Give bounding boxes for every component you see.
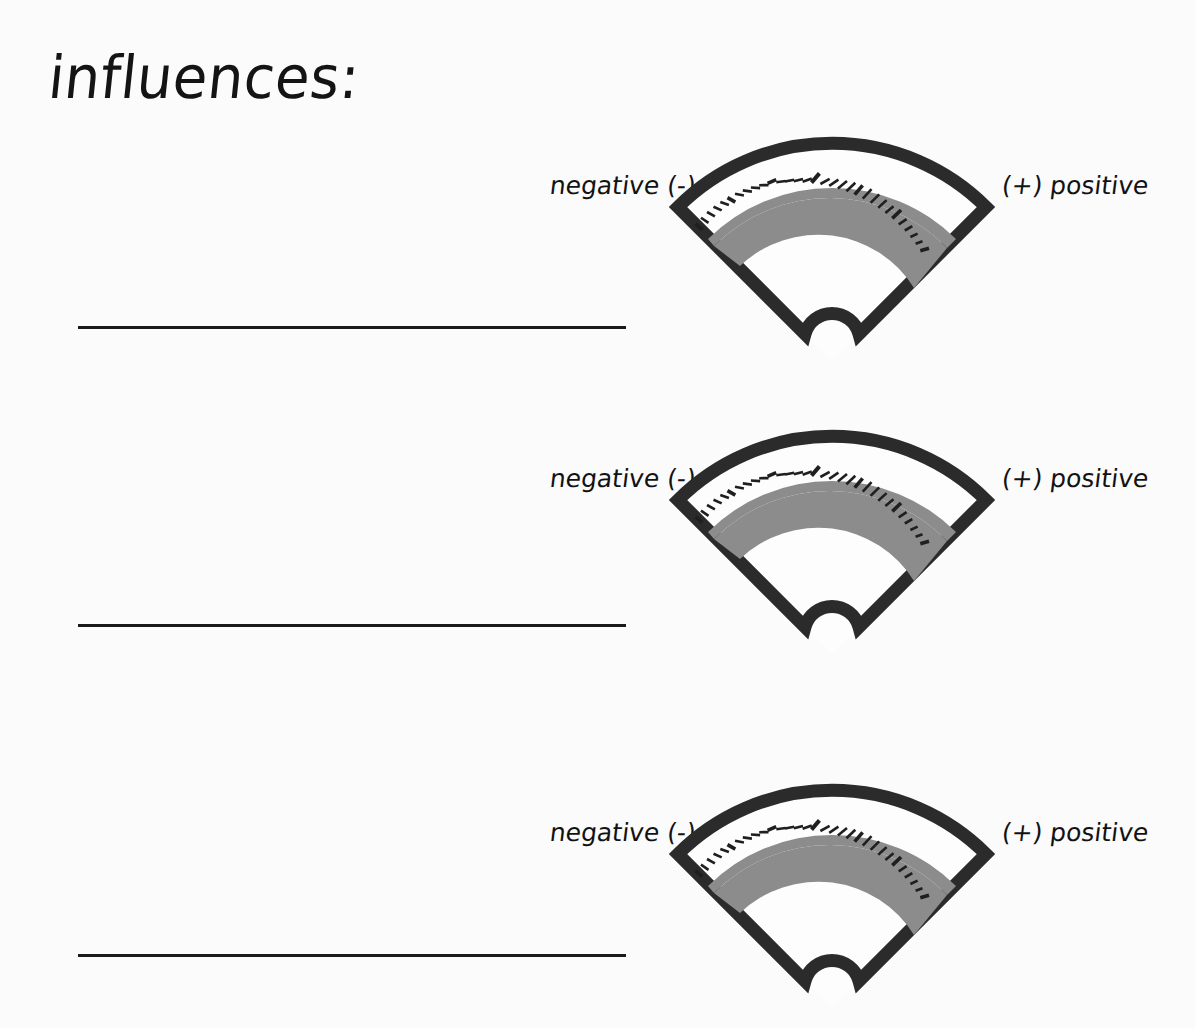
gauge-dial-icon[interactable]: [652, 125, 1012, 361]
gauge-label-positive: (+) positive: [1000, 173, 1150, 198]
worksheet-page: influences: negative (-): [0, 0, 1195, 1028]
gauge-label-positive: (+) positive: [1000, 466, 1150, 491]
gauge-row: negative (-): [540, 125, 1180, 365]
gauge-dial-icon[interactable]: [652, 772, 1012, 1008]
gauge-row: negative (-): [540, 418, 1180, 658]
gauge-dial-icon[interactable]: [652, 418, 1012, 654]
gauge-label-positive: (+) positive: [1000, 820, 1150, 845]
page-title: influences:: [46, 48, 363, 107]
gauge-row: negative (-): [540, 772, 1180, 1012]
